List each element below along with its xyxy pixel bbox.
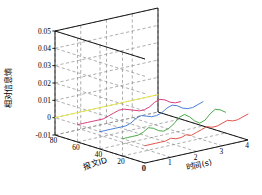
z-tick-label: 0.03 bbox=[38, 61, 51, 70]
z-tick-label: 0.04 bbox=[38, 44, 51, 53]
z-axis-title: 相对信息熵 bbox=[3, 68, 13, 108]
y-tick-label: 60 bbox=[72, 143, 80, 152]
z-tick-label: 0.05 bbox=[38, 27, 51, 36]
x-axis-title: 时间(s) bbox=[185, 157, 213, 173]
axis-titles: 相对信息熵报文ID时间(s) bbox=[3, 68, 213, 172]
z-tick-label: 0.02 bbox=[38, 79, 51, 88]
tick-labels: 0.050.040.030.020.010-0.0180604020001234 bbox=[36, 27, 250, 173]
series-line bbox=[145, 114, 248, 146]
series-line bbox=[100, 102, 203, 132]
series-line bbox=[78, 99, 181, 124]
series-line bbox=[123, 109, 226, 138]
z-tick-label: 0 bbox=[47, 113, 51, 122]
z-tick-label: 0.01 bbox=[38, 96, 51, 105]
chart-figure: 0.050.040.030.020.010-0.0180604020001234… bbox=[0, 0, 262, 195]
grid-lines bbox=[55, 8, 248, 163]
x-tick-label: 1 bbox=[168, 158, 172, 167]
chart-svg: 0.050.040.030.020.010-0.0180604020001234… bbox=[0, 0, 262, 195]
x-tick-label: 4 bbox=[245, 141, 249, 150]
x-tick-label: 0 bbox=[142, 164, 146, 173]
y-tick-label: 80 bbox=[50, 136, 58, 145]
x-tick-label: 3 bbox=[219, 147, 223, 156]
y-tick-label: 20 bbox=[117, 157, 125, 166]
data-series bbox=[55, 95, 248, 146]
axis-lines bbox=[52, 8, 248, 163]
